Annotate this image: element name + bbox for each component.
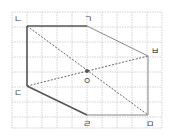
center-point-dot [85, 69, 89, 73]
label-ieung: ㅇ [83, 76, 91, 86]
label-rieul: ㄹ [83, 119, 91, 129]
hexagon-edge-light [87, 26, 148, 56]
label-nieun: ㄴ [14, 14, 22, 24]
center-dot [85, 69, 89, 73]
label-digeut: ㄷ [14, 88, 22, 98]
label-mieum: ㅁ [146, 119, 154, 129]
label-giyeok: ㄱ [84, 14, 92, 24]
label-bieup: ㅂ [151, 46, 159, 56]
hexagon-diagram: ㄴ ㄱ ㅂ ㅇ ㄷ ㄹ ㅁ [0, 0, 172, 137]
